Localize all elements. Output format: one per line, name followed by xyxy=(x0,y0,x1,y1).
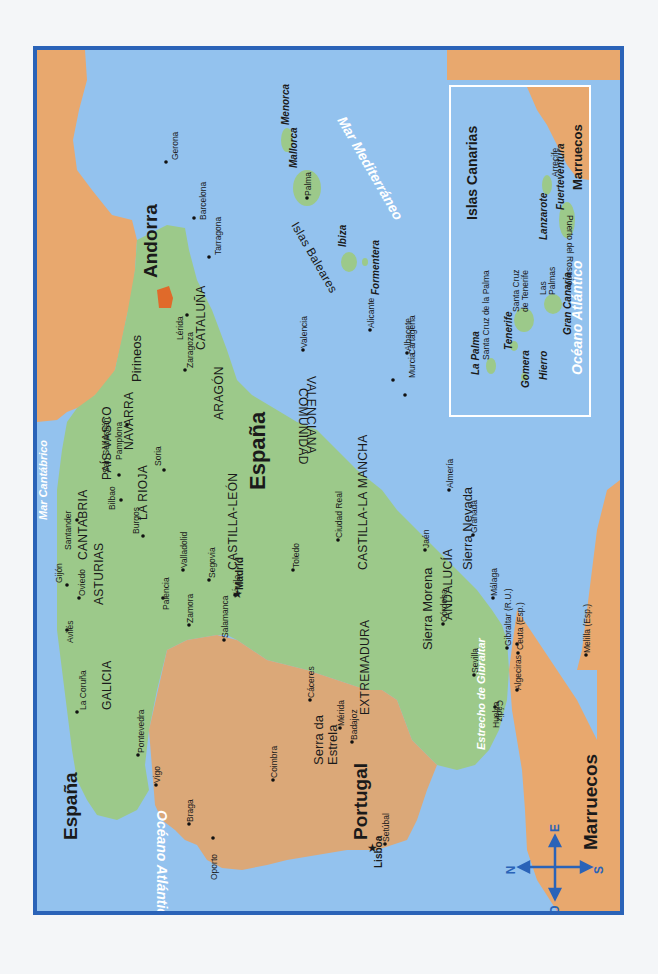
label-cantabria: CANTABRIA xyxy=(76,490,90,561)
ibiza-island xyxy=(341,252,357,272)
label-madrid: Madrid xyxy=(234,557,245,590)
label-valencia: Valencia xyxy=(299,316,309,348)
label-salamanca: Salamanca xyxy=(220,595,230,638)
formentera-island xyxy=(362,258,368,266)
label-castilla-leon: CASTILLA-LEÓN xyxy=(225,473,240,570)
label-aragon: ARAGÓN xyxy=(211,366,226,420)
label-coimbra: Coimbra xyxy=(269,746,279,778)
label-sierra-morena: Sierra Morena xyxy=(420,567,435,650)
label-melilla: Melilla (Esp.) xyxy=(582,604,592,653)
label-granada: Granada xyxy=(469,500,479,533)
compass-s: S xyxy=(592,866,606,874)
label-castilla-la-mancha: CASTILLA-LA MANCHA xyxy=(356,435,370,570)
label-barcelona: Barcelona xyxy=(198,181,208,220)
label-espana-corner: España xyxy=(60,772,81,840)
label-mar-mediterraneo: Mar Mediterráneo xyxy=(334,114,406,223)
label-palmas: Palmas xyxy=(547,267,557,295)
label-bilbao: Bilbao xyxy=(107,486,117,510)
label-soria: Soria xyxy=(153,446,163,466)
label-aviles: Avilés xyxy=(65,620,75,643)
label-islas-baleares: Islas Baleares xyxy=(288,220,340,296)
label-vigo: Vigo xyxy=(152,766,162,783)
label-palma: Palma xyxy=(303,172,313,196)
label-menorca: Menorca xyxy=(280,83,291,125)
label-zamora: Zamora xyxy=(185,593,195,623)
label-gijon: Gijón xyxy=(54,563,64,583)
label-cordoba: Córdoba xyxy=(439,589,449,622)
label-merida: Mérida xyxy=(336,700,346,726)
label-la-coruna: La Coruña xyxy=(78,670,88,710)
label-malaga: Málaga xyxy=(489,568,499,596)
label-valenciana: VALENCIANA xyxy=(304,376,318,454)
label-espana-center: España xyxy=(245,411,270,490)
label-zaragoza: Zaragoza xyxy=(185,332,195,368)
label-lanzarote: Lanzarote xyxy=(538,192,549,240)
label-ibiza: Ibiza xyxy=(337,224,348,247)
label-algeciras: Algeciras xyxy=(513,655,523,690)
label-gerona: Gerona xyxy=(170,131,180,160)
label-extremadura: EXTREMADURA xyxy=(358,620,372,715)
label-arrecife: Arrecife xyxy=(550,147,560,177)
label-tenerife: Tenerife xyxy=(503,311,514,350)
label-valladolid: Valladolid xyxy=(179,531,189,568)
label-cataluna: CATALUÑA xyxy=(194,285,208,350)
gran-canaria-island xyxy=(544,294,562,314)
compass-n: N xyxy=(504,866,518,875)
lanzarote-island xyxy=(542,175,552,195)
label-navarra: NAVARRA xyxy=(122,392,136,450)
label-san-sebastian: San Sebastián xyxy=(101,417,111,473)
label-cartagena: Cartagena xyxy=(407,315,417,355)
label-mallorca: Mallorca xyxy=(288,127,299,168)
label-santa-cruz-la-palma: Santa Cruz de la Palma xyxy=(481,270,491,360)
label-braga: Braga xyxy=(185,799,195,822)
label-gomera: Gomera xyxy=(520,350,531,388)
label-hierro: Hierro xyxy=(538,351,549,380)
label-gibraltar: Gibraltar (R.U.) xyxy=(503,588,513,646)
label-de-tenerife: de Tenerife xyxy=(520,270,530,312)
label-setubal: Setúbal xyxy=(381,813,391,842)
label-estrela: Estrela xyxy=(325,724,340,765)
label-formentera: Formentera xyxy=(370,240,381,295)
label-asturias: ASTURIAS xyxy=(92,543,106,605)
label-pontevedra: Pontevedra xyxy=(136,709,146,753)
label-marruecos: Marruecos xyxy=(580,754,601,850)
label-portugal: Portugal xyxy=(350,763,371,840)
label-sevilla: Sevilla xyxy=(470,648,480,673)
map-canvas: España España Portugal Andorra Marruecos… xyxy=(37,50,620,911)
label-puerto-del-rosario: Puerto del Rosario xyxy=(565,215,575,286)
label-pirineos: Pirineos xyxy=(129,335,144,382)
label-tarragona: Tarragona xyxy=(213,216,223,255)
label-ciudad-real: Ciudad Real xyxy=(334,491,344,538)
label-mar-cantabrico: Mar Cantábrico xyxy=(37,440,49,520)
label-pamplona: Pamplona xyxy=(114,421,124,460)
label-islas-canarias: Islas Canarias xyxy=(464,126,480,220)
label-badajoz: Badajoz xyxy=(349,709,359,740)
label-caceres: Cáceres xyxy=(306,666,316,698)
label-alicante: Alicante xyxy=(366,297,376,328)
label-andorra: Andorra xyxy=(140,204,161,278)
label-serra-da: Serra da xyxy=(311,714,326,765)
label-oceano-atlantico: Océano Atlántico xyxy=(154,810,170,911)
label-palencia: Palencia xyxy=(161,577,171,610)
label-santander: Santander xyxy=(63,511,73,550)
label-oviedo: Oviedo xyxy=(77,569,87,596)
label-almeria: Almería xyxy=(445,458,455,488)
label-toledo: Toledo xyxy=(291,543,301,568)
label-galicia: GALICIA xyxy=(100,661,114,710)
label-jaen: Jaén xyxy=(421,529,431,548)
label-cadiz: Cádiz xyxy=(495,700,505,722)
label-oporto: Oporto xyxy=(209,854,219,880)
label-ceuta: Ceuta (Esp.) xyxy=(515,602,525,650)
compass-o: O xyxy=(548,905,562,911)
label-la-palma: La Palma xyxy=(470,331,481,375)
label-burgos: Burgos xyxy=(131,507,141,534)
map-frame: España España Portugal Andorra Marruecos… xyxy=(33,46,624,915)
label-segovia: Segovia xyxy=(207,547,217,578)
label-lerida: Lérida xyxy=(175,316,185,340)
label-murcia: Murcia xyxy=(407,352,417,378)
label-marruecos-inset: Marruecos xyxy=(570,124,585,190)
compass-e: E xyxy=(548,824,562,832)
